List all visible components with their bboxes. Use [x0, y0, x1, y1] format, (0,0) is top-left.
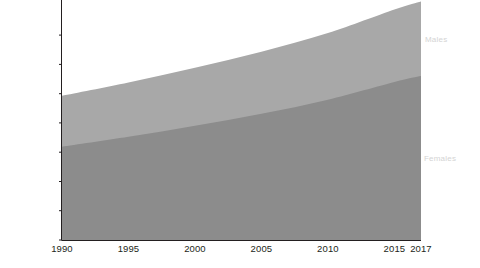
x-tick-label: 2000 — [180, 243, 210, 254]
x-tick-label: 2010 — [313, 243, 343, 254]
x-tick-label: 2005 — [246, 243, 276, 254]
x-tick-label: 2015 — [379, 243, 409, 254]
stacked-area-chart: 14 million 12 million 10 million 8 milli… — [0, 0, 480, 268]
y-axis-labels: 14 million 12 million 10 million 8 milli… — [0, 0, 58, 268]
x-tick-label: 1990 — [47, 243, 77, 254]
x-tick-label: 1995 — [114, 243, 144, 254]
series-label-females: Females — [424, 154, 456, 163]
x-tick-label: 2017 — [406, 243, 436, 254]
series-layer — [62, 1, 421, 240]
series-label-males: Males — [425, 35, 447, 44]
chart-plot-area — [0, 0, 480, 268]
